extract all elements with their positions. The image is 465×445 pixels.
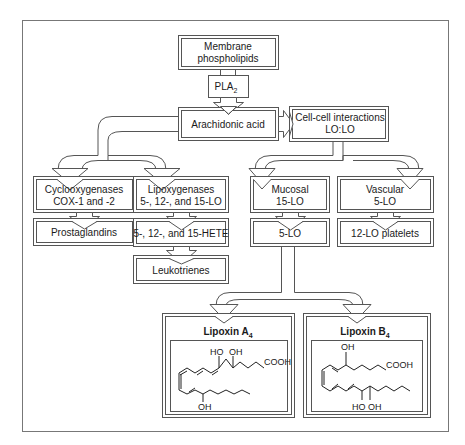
cox-line1: Cyclooxygenases [45, 184, 123, 195]
lxa4-subscript: 4 [249, 332, 253, 339]
lxb4-oh1: OH [341, 342, 355, 352]
lipox-line2: 5-, 12-, and 15-LO [140, 196, 222, 207]
lxb4-title: Lipoxin B [340, 326, 386, 337]
node-vascular: Vascular 5-LO [338, 177, 434, 213]
node-leukotrienes: Leukotrienes [134, 256, 229, 284]
hete-label: 5-, 12-, and 15-HETE [133, 228, 228, 239]
vascular-line2: 5-LO [374, 196, 396, 207]
node-mucosal: Mucosal 15-LO [251, 177, 330, 213]
node-cyclooxygenases: Cyclooxygenases COX-1 and -2 [34, 177, 136, 213]
node-prostaglandins: Prostaglandins [34, 219, 136, 246]
lxa4-oh1: OH [229, 347, 243, 357]
lxa4-title: Lipoxin A [203, 326, 248, 337]
twelvelo-label: 12-LO platelets [351, 228, 419, 239]
membrane-line2: phospholipids [197, 53, 258, 64]
cellcell-line2: LO:LO [325, 124, 355, 135]
node-arachidonic-acid: Arachidonic acid [179, 107, 279, 141]
vascular-line1: Vascular [366, 184, 405, 195]
lipoxin-pathway-diagram: Membrane phospholipids PLA2 Arachidonic … [0, 0, 465, 445]
lxb4-subscript: 4 [386, 332, 390, 339]
cox-line2: COX-1 and -2 [53, 196, 115, 207]
leukotrienes-label: Leukotrienes [152, 265, 209, 276]
lxb4-oh2: OH [368, 402, 382, 412]
node-membrane-phospholipids: Membrane phospholipids [179, 36, 279, 70]
lxb4-ho: HO [352, 402, 366, 412]
lxa4-ho: HO [210, 347, 224, 357]
node-lipoxin-a4: Lipoxin A4 HO OH COOH OH [163, 314, 295, 418]
lipox-line1: Lipoxygenases [148, 184, 215, 195]
lxa4-cooh: COOH [264, 357, 291, 367]
node-pla2: PLA2 [209, 76, 249, 98]
mucosal-line1: Mucosal [271, 184, 308, 195]
node-lipoxin-b4: Lipoxin B4 OH COOH HO OH [304, 314, 431, 418]
lxb4-cooh: COOH [386, 360, 413, 370]
arachidonic-label: Arachidonic acid [191, 119, 264, 130]
node-12lo-platelets: 12-LO platelets [338, 219, 434, 247]
cellcell-line1: Cell-cell interactions [295, 112, 384, 123]
node-cell-cell-interactions: Cell-cell interactions LO:LO [290, 107, 389, 142]
mucosal-line2: 15-LO [276, 196, 304, 207]
node-lipoxygenases: Lipoxygenases 5-, 12-, and 15-LO [134, 177, 229, 213]
prostaglandins-label: Prostaglandins [51, 227, 117, 238]
lxa4-oh2: OH [198, 402, 212, 412]
pla2-label: PLA [215, 81, 234, 92]
node-hete: 5-, 12-, and 15-HETE [133, 219, 228, 247]
fivelo-label: 5-LO [279, 228, 301, 239]
membrane-line1: Membrane [204, 41, 252, 52]
pla2-subscript: 2 [234, 87, 238, 94]
node-5lo: 5-LO [251, 219, 330, 247]
